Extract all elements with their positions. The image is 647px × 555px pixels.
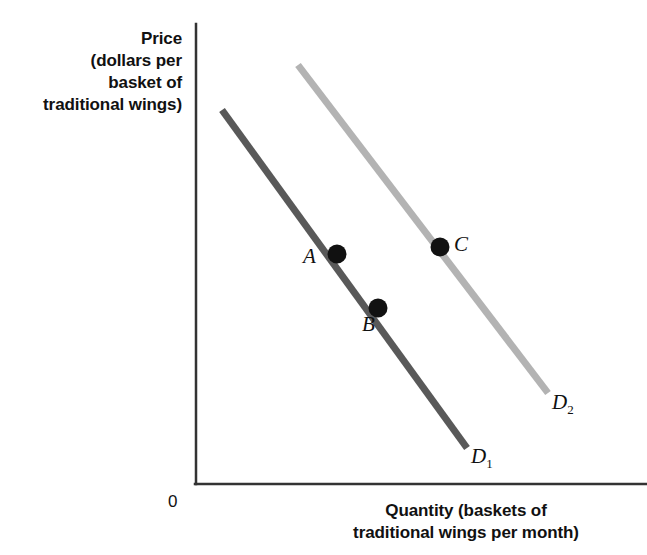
y-axis-label-line-2: (dollars per [6, 50, 182, 72]
origin-label: 0 [168, 492, 177, 512]
curve-label-d1-subscript: 1 [486, 456, 493, 471]
y-axis-label: Price (dollars per basket of traditional… [6, 28, 182, 116]
curve-label-d2: D2 [552, 390, 574, 418]
demand-curve-d1 [222, 110, 467, 448]
demand-curve-d2 [298, 65, 548, 393]
y-axis-label-line-4: traditional wings) [6, 94, 182, 116]
data-point-a-marker [328, 245, 347, 264]
y-axis-label-line-3: basket of [6, 72, 182, 94]
x-axis-label: Quantity (baskets of traditional wings p… [287, 500, 645, 544]
curve-label-d2-base: D [552, 390, 567, 414]
data-point-label-a: A [303, 244, 316, 269]
data-point-c-marker [431, 238, 450, 257]
demand-curve-figure: Price (dollars per basket of traditional… [0, 0, 647, 555]
data-point-label-b: B [362, 312, 375, 337]
x-axis-label-line-2: traditional wings per month) [287, 522, 645, 544]
curve-label-d2-subscript: 2 [567, 402, 574, 417]
curve-label-d1-base: D [471, 444, 486, 468]
curve-label-d1: D1 [471, 444, 493, 472]
y-axis-label-line-1: Price [6, 28, 182, 50]
x-axis-label-line-1: Quantity (baskets of [287, 500, 645, 522]
data-point-label-c: C [454, 232, 468, 257]
